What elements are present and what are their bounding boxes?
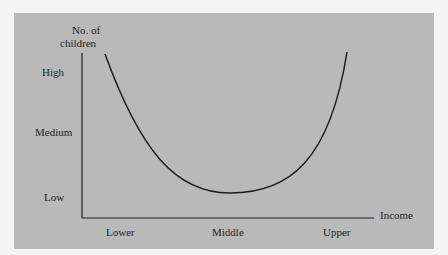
y-axis-title-1: No. of xyxy=(66,24,106,36)
x-label-lower: Lower xyxy=(106,226,135,238)
y-label-high: High xyxy=(42,66,64,78)
u-curve xyxy=(105,52,347,193)
x-label-upper: Upper xyxy=(323,226,351,238)
x-label-middle: Middle xyxy=(212,226,244,238)
y-label-low: Low xyxy=(44,191,64,203)
x-axis-title: Income xyxy=(380,209,413,221)
y-axis-title-2: children xyxy=(60,37,96,49)
y-label-medium: Medium xyxy=(35,126,72,138)
